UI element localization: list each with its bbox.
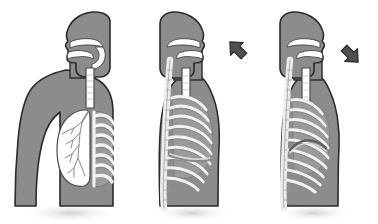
inhalation-arrow xyxy=(223,35,250,62)
trachea xyxy=(86,68,94,108)
respiratory-system-figure: Respiratory system: breathing mechanics xyxy=(0,0,378,224)
panel-anatomy-overview xyxy=(0,0,126,224)
panel-exhalation xyxy=(252,0,378,224)
exhalation-arrow xyxy=(338,42,365,69)
panel-inhalation xyxy=(126,0,252,224)
